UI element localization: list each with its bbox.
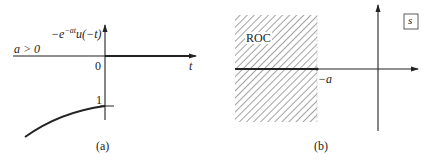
origin-label: 0 [95, 60, 101, 72]
signal-label-base: −e [51, 27, 64, 41]
signal-label-exponent: −at [64, 26, 76, 35]
time-axis-label: t [189, 60, 192, 72]
pole-marker [315, 67, 318, 70]
caption-b: (b) [314, 140, 328, 152]
signal-label: −e−atu(−t) [51, 27, 102, 40]
panel-a-plot [13, 25, 196, 137]
diagram-canvas [0, 0, 431, 164]
condition-label: a > 0 [14, 43, 40, 55]
pole-label: −a [318, 73, 332, 85]
signal-curve [25, 106, 105, 137]
signal-label-tail: u(−t) [76, 27, 101, 41]
roc-label: ROC [245, 32, 272, 44]
panel-b-plot [235, 5, 418, 131]
tick-one-label: 1 [96, 94, 102, 106]
s-plane-label: s [408, 15, 412, 26]
caption-a: (a) [96, 140, 109, 152]
